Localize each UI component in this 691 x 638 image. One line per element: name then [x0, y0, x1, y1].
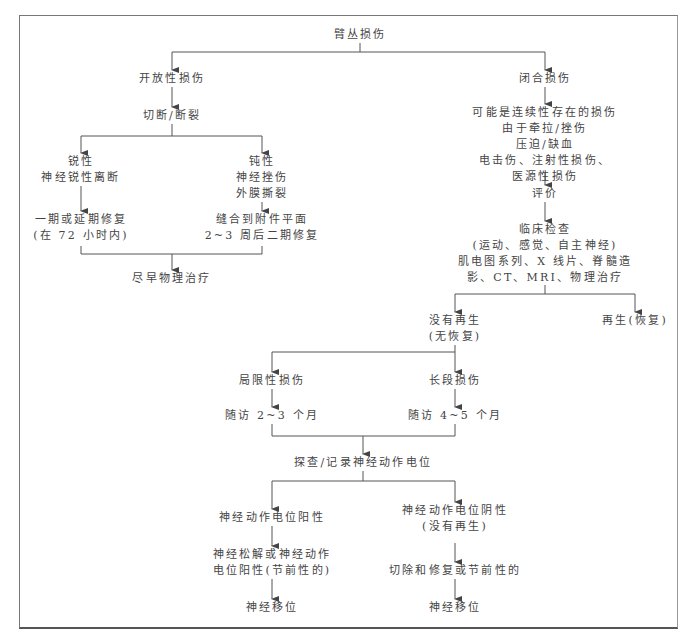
- node-text: 臂丛损伤: [334, 27, 387, 43]
- node-text: 影、CT、MRI、物理治疗: [458, 270, 632, 286]
- node-text: 闭合损伤: [519, 71, 572, 87]
- node-text: 切断/断裂: [143, 108, 202, 124]
- node-primary-repair: 一期或延期修复 (在 72 小时内): [33, 212, 129, 244]
- node-text: 医源性损伤: [472, 169, 617, 185]
- node-text: 开放性损伤: [139, 71, 205, 87]
- node-text: 长段损伤: [429, 373, 482, 389]
- node-text: 2~3 周后二期修复: [205, 228, 320, 244]
- node-closed-injury: 闭合损伤: [519, 71, 572, 87]
- node-text: 电击伤、注射性损伤、: [472, 153, 617, 169]
- node-text: 随访 2~3 个月: [225, 408, 319, 424]
- node-closed-causes: 可能是连续性存在的损伤 由于牵拉/挫伤 压迫/缺血 电击伤、注射性损伤、 医源性…: [472, 105, 617, 185]
- node-text: 评价: [532, 186, 558, 202]
- node-text: 局限性损伤: [239, 373, 305, 389]
- connector-layer: [0, 0, 691, 638]
- node-no-regeneration: 没有再生 (无恢复): [429, 313, 482, 345]
- node-text: 一期或延期修复: [33, 212, 129, 228]
- node-nerve-transfer-left: 神经移位: [246, 600, 299, 616]
- node-early-physical-therapy: 尽早物理治疗: [132, 271, 211, 287]
- node-text: (运动、感觉、自主神经): [458, 238, 632, 254]
- node-text: 再生(恢复): [602, 313, 668, 329]
- node-text: 神经动作电位阳性: [219, 510, 325, 526]
- node-text: 神经松解或神经动作: [213, 547, 332, 563]
- node-text: 切除和修复或节前性的: [389, 563, 521, 579]
- node-follow-up-2-3: 随访 2~3 个月: [225, 408, 319, 424]
- node-evaluate: 评价: [532, 186, 558, 202]
- node-text: 没有再生: [429, 313, 482, 329]
- node-text: 神经锐性离断: [41, 170, 120, 186]
- node-localized-injury: 局限性损伤: [239, 373, 305, 389]
- node-nerve-transfer-right: 神经移位: [429, 600, 482, 616]
- node-follow-up-4-5: 随访 4~5 个月: [408, 408, 502, 424]
- node-text: 探查/记录神经动作电位: [294, 455, 432, 471]
- node-text: 神经移位: [429, 600, 482, 616]
- node-text: (没有再生): [402, 519, 508, 535]
- node-text: 压迫/缺血: [472, 137, 617, 153]
- node-clinical-exam: 临床检查 (运动、感觉、自主神经) 肌电图系列、X 线片、脊髓造 影、CT、MR…: [458, 222, 632, 286]
- node-text: 电位阳性(节前性的): [213, 563, 332, 579]
- node-text: 神经动作电位阴性: [402, 503, 508, 519]
- node-text: 外膜撕裂: [236, 186, 289, 202]
- node-regeneration: 再生(恢复): [602, 313, 668, 329]
- node-resect-repair: 切除和修复或节前性的: [389, 563, 521, 579]
- node-text: (无恢复): [429, 329, 482, 345]
- node-text: 由于牵拉/挫伤: [472, 121, 617, 137]
- node-explore-record-nap: 探查/记录神经动作电位: [294, 455, 432, 471]
- node-text: 神经移位: [246, 600, 299, 616]
- node-text: (在 72 小时内): [33, 228, 129, 244]
- node-open-injury: 开放性损伤: [139, 71, 205, 87]
- node-text: 可能是连续性存在的损伤: [472, 105, 617, 121]
- node-transection-rupture: 切断/断裂: [143, 108, 202, 124]
- node-text: 钝性: [236, 154, 289, 170]
- node-nap-positive: 神经动作电位阳性: [219, 510, 325, 526]
- node-brachial-plexus-injury: 臂丛损伤: [334, 27, 387, 43]
- node-secondary-repair: 缝合到附件平面 2~3 周后二期修复: [205, 212, 320, 244]
- node-text: 临床检查: [458, 222, 632, 238]
- node-sharp: 锐性 神经锐性离断: [41, 154, 120, 186]
- node-long-segment-injury: 长段损伤: [429, 373, 482, 389]
- node-text: 尽早物理治疗: [132, 271, 211, 287]
- node-text: 随访 4~5 个月: [408, 408, 502, 424]
- node-text: 锐性: [41, 154, 120, 170]
- node-blunt: 钝性 神经挫伤 外膜撕裂: [236, 154, 289, 202]
- node-text: 缝合到附件平面: [205, 212, 320, 228]
- node-nap-negative: 神经动作电位阴性 (没有再生): [402, 503, 508, 535]
- node-text: 肌电图系列、X 线片、脊髓造: [458, 254, 632, 270]
- node-neurolysis: 神经松解或神经动作 电位阳性(节前性的): [213, 547, 332, 579]
- node-text: 神经挫伤: [236, 170, 289, 186]
